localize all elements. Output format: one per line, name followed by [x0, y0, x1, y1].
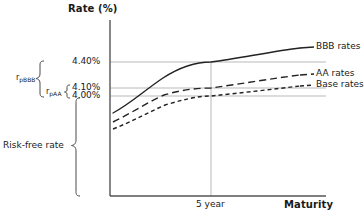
brace-risk-free-rate [72, 98, 81, 196]
annotation-rpaa-subscript: pAA [49, 90, 61, 97]
series-line-bbb-rates [113, 48, 300, 113]
legend-label-bbb-rates: BBB rates [316, 42, 360, 51]
annotation-rpaa: rpAA [46, 88, 61, 96]
series-line-aa-rates [113, 75, 300, 122]
y-axis-title: Rate (%) [68, 4, 117, 14]
annotation-rpbbb: rpBBB [16, 74, 35, 82]
x-axis-title: Maturity [284, 200, 333, 210]
x-tick-label-5-year: 5 year [196, 200, 225, 209]
legend-leader-bbb [300, 47, 314, 48]
series-line-base-rates [113, 86, 300, 129]
brace-rpbbb [36, 61, 44, 97]
annotation-rpbbb-subscript: pBBB [19, 76, 35, 83]
y-tick-label-400: 4.00% [72, 91, 100, 100]
y-tick-label-440: 4.40% [72, 57, 100, 66]
legend-leader-base [300, 85, 314, 86]
legend-label-aa-rates: AA rates [316, 69, 354, 78]
legend-leader-aa [300, 74, 314, 75]
annotation-risk-free-rate: Risk-free rate [3, 141, 64, 150]
brace-rpaa [65, 85, 71, 98]
legend-label-base-rates: Base rates [316, 80, 364, 89]
